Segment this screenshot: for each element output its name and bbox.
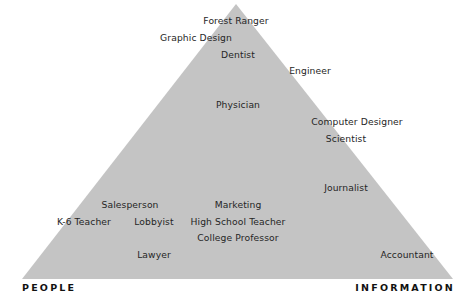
career-label: High School Teacher <box>191 217 286 226</box>
career-label: Graphic Design <box>160 33 232 42</box>
axis-label-information: INFORMATION <box>355 283 455 293</box>
career-label: Scientist <box>326 134 366 143</box>
career-label: Dentist <box>221 50 255 59</box>
axis-label-people: PEOPLE <box>22 283 76 293</box>
career-label: Journalist <box>324 183 368 192</box>
career-label: Forest Ranger <box>203 16 268 25</box>
career-triangle-diagram: Forest Ranger Graphic Design Dentist Eng… <box>0 0 469 296</box>
career-label: College Professor <box>197 233 278 242</box>
career-label: Computer Designer <box>311 117 402 126</box>
career-label: Physician <box>216 100 260 109</box>
career-label: Salesperson <box>101 200 158 209</box>
career-label: Marketing <box>215 200 262 209</box>
career-label: Lobbyist <box>134 217 173 226</box>
career-label: Engineer <box>289 66 331 75</box>
career-label: Lawyer <box>137 250 171 259</box>
career-label: K-6 Teacher <box>57 217 111 226</box>
career-label: Accountant <box>380 250 433 259</box>
